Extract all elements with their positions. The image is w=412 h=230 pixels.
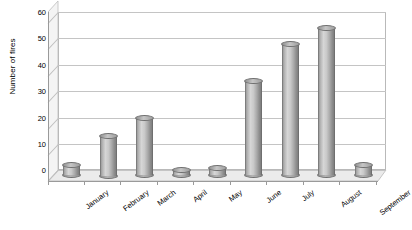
x-label-september: September	[378, 188, 412, 217]
x-label-march: March	[156, 188, 178, 208]
x-label-january: January	[84, 188, 111, 211]
x-label-july: July	[300, 188, 316, 203]
x-label-february: February	[121, 188, 150, 213]
x-label-august: August	[339, 188, 363, 209]
x-label-june: June	[264, 188, 282, 205]
x-label-april: April	[191, 188, 208, 204]
x-label-may: May	[227, 188, 244, 204]
